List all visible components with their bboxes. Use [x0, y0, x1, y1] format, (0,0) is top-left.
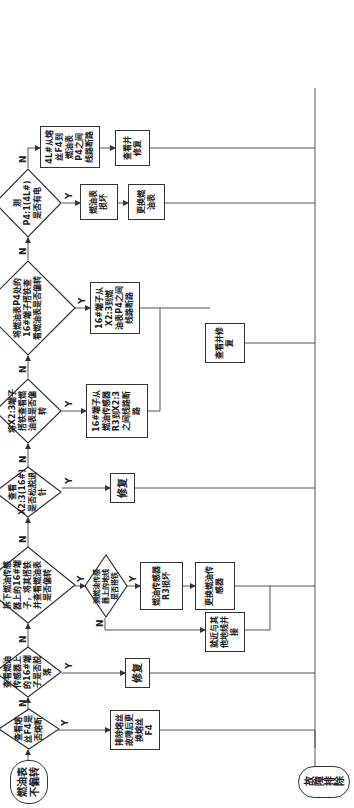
decision-p4-1-power: 测P4:1(4L#)是否有电: [0, 168, 62, 238]
decision-label: 拆下燃油传感器上的16#端子，将其搭铁并查看燃油表是否偏转: [3, 546, 53, 624]
flowchart-canvas: 燃油表不偏转 查看熔丝F4是否熔断 查看燃油传感器上的16#端子是否脱落 拆下燃…: [0, 0, 354, 808]
start-terminal: 燃油表不偏转: [10, 760, 48, 804]
no-label: N: [18, 535, 28, 543]
decision-label: 查看熔丝F4是否熔断: [14, 708, 44, 750]
action-label: 燃油传感器R3损坏: [152, 566, 172, 606]
no-label: N: [18, 455, 28, 463]
decision-ground-terminal-test: 拆下燃油传感器上的16#端子，将其搭铁并查看燃油表是否偏转: [0, 546, 76, 624]
action-open-r3-x2: 16#端子从燃油传感器R3到X2:3之间线路断路: [86, 384, 148, 438]
yes-label: Y: [128, 575, 138, 582]
decision-fuse-check: 查看熔丝F4是否熔断: [0, 708, 60, 750]
action-inspect-repair-4l: 查看并修复: [115, 130, 150, 166]
yes-label: Y: [64, 662, 74, 669]
yes-label: Y: [64, 477, 74, 484]
action-label: 排除熔丝故障后更换熔丝F4: [115, 714, 155, 746]
decision-label: 将X2:3端子搭铁查看燃油表是否偏转: [8, 378, 48, 444]
no-label: N: [18, 155, 28, 163]
action-label: 查看并修复: [123, 134, 143, 162]
decision-sensor-terminal-check: 查看燃油传感器上的16#端子是否脱落: [0, 646, 62, 698]
start-label: 燃油表不偏转: [17, 767, 41, 797]
action-label: 16#端子从燃油传感器R3到X2:3之间线路断路: [92, 388, 142, 434]
no-label: N: [18, 699, 28, 707]
action-repair-terminal: 修复: [125, 658, 150, 688]
action-label: 16#端子从X2:3到燃油表P4之间线路断路: [95, 286, 135, 330]
decision-p4-ground-test: 将燃油表P4处的16#端子搭铁查看燃油表是否偏转: [0, 260, 76, 356]
decision-label: 测燃油传感器上的地线是否搭铁: [93, 554, 120, 618]
yes-label: Y: [76, 575, 86, 582]
action-sensor-damaged: 燃油传感器R3损坏: [140, 562, 183, 610]
yes-label: Y: [64, 192, 74, 199]
action-gauge-damaged: 燃油表损坏: [80, 184, 118, 220]
yes-label: Y: [64, 400, 74, 407]
action-label: 4L#从熔丝F4到燃油表P4之间线路断路: [45, 130, 95, 164]
action-label: 查看并修复: [215, 327, 235, 359]
no-label: N: [18, 365, 28, 373]
yes-label: Y: [60, 719, 70, 726]
end-terminal: 故障排除: [298, 766, 350, 798]
action-label: 更换燃油表: [137, 188, 157, 216]
action-open-x2-p4: 16#端子从X2:3到燃油表P4之间线路断路: [90, 282, 140, 334]
action-repair-x2-3: 修复: [110, 473, 135, 503]
yes-label: Y: [77, 297, 87, 304]
no-label: N: [18, 635, 28, 643]
decision-x2-3-pin-check: 查看X2:3(16#)是否松脱退针: [0, 466, 62, 518]
action-parallel-ground: 就近与其他地线并接: [205, 612, 245, 652]
action-label: 更换燃油传感器: [205, 566, 225, 606]
decision-label: 查看X2:3(16#)是否松脱退针: [8, 461, 48, 523]
decision-label: 将燃油表P4处的16#端子搭铁查看燃油表是否偏转: [13, 260, 43, 356]
decision-x2-3-ground-test: 将X2:3端子搭铁查看燃油表是否偏转: [0, 378, 62, 444]
action-label: 修复: [132, 663, 144, 683]
action-replace-fuse: 排除熔丝故障后更换熔丝F4: [110, 710, 160, 750]
decision-sensor-ground-wire: 测燃油传感器上的地线是否搭铁: [84, 554, 128, 618]
action-label: 修复: [117, 478, 129, 498]
no-label: N: [18, 247, 28, 255]
end-label: 故障排除: [304, 776, 344, 788]
decision-label: 测P4:1(4L#)是否有电: [13, 168, 43, 238]
action-label: 就近与其他地线并接: [210, 616, 240, 648]
action-open-f4-p4: 4L#从熔丝F4到燃油表P4之间线路断路: [40, 126, 100, 168]
action-replace-sensor: 更换燃油传感器: [195, 562, 235, 610]
action-replace-gauge: 更换燃油表: [128, 184, 165, 220]
action-label: 燃油表损坏: [89, 188, 109, 216]
no-label: N: [95, 619, 105, 627]
decision-label: 查看燃油传感器上的16#端子是否脱落: [3, 646, 53, 698]
action-inspect-repair: 查看并修复: [205, 323, 245, 363]
